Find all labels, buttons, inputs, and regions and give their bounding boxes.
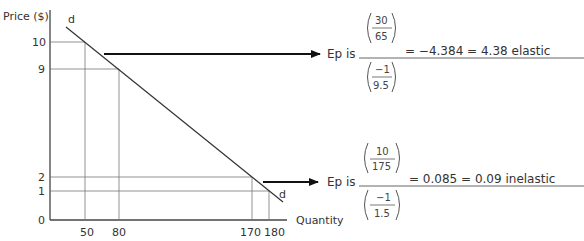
demand-label-top: d bbox=[68, 13, 75, 26]
paren-left-icon bbox=[365, 190, 369, 220]
y-tick-0: 0 bbox=[38, 214, 45, 227]
num-numerator-upper: 30 bbox=[375, 15, 388, 26]
x-tick-80: 80 bbox=[112, 226, 126, 239]
den-denominator-lower: 1.5 bbox=[374, 208, 390, 219]
num-denominator-upper: 65 bbox=[375, 31, 388, 42]
guide-lines bbox=[50, 42, 269, 220]
x-tick-180: 180 bbox=[264, 226, 285, 239]
paren-right-icon bbox=[392, 13, 396, 43]
ep-prefix-upper: Ep is bbox=[327, 47, 356, 61]
elasticity-lower: Ep is 10 175 −1 1.5 = 0.085 = 0.09 inela… bbox=[327, 143, 584, 220]
paren-left-icon bbox=[368, 62, 372, 92]
x-tick-170: 170 bbox=[240, 226, 261, 239]
y-tick-2: 2 bbox=[38, 171, 45, 184]
x-axis-label: Quantity bbox=[296, 214, 344, 227]
ep-result-upper: = −4.384 = 4.38 elastic bbox=[405, 44, 550, 58]
ep-result-lower: = 0.085 = 0.09 inelastic bbox=[409, 172, 555, 186]
paren-right-icon bbox=[396, 190, 400, 220]
y-tick-9: 9 bbox=[38, 63, 45, 76]
elasticity-upper: Ep is 30 65 −1 9.5 = −4.384 = 4.38 elast… bbox=[327, 13, 584, 92]
num-numerator-lower: 10 bbox=[376, 146, 389, 157]
den-numerator-upper: −1 bbox=[375, 64, 390, 75]
demand-label-bottom: d bbox=[279, 188, 286, 201]
den-denominator-upper: 9.5 bbox=[373, 80, 389, 91]
paren-right-icon bbox=[396, 143, 400, 173]
y-tick-10: 10 bbox=[32, 36, 46, 49]
y-axis-label: Price ($) bbox=[3, 10, 49, 23]
paren-left-icon bbox=[365, 143, 369, 173]
ep-prefix-lower: Ep is bbox=[327, 175, 356, 189]
paren-left-icon bbox=[368, 13, 372, 43]
demand-elasticity-diagram: Price ($) Quantity d d 10 9 2 1 0 50 80 … bbox=[0, 0, 584, 241]
x-tick-50: 50 bbox=[80, 226, 94, 239]
paren-right-icon bbox=[392, 62, 396, 92]
y-tick-1: 1 bbox=[38, 185, 45, 198]
num-denominator-lower: 175 bbox=[372, 161, 391, 172]
den-numerator-lower: −1 bbox=[376, 192, 391, 203]
